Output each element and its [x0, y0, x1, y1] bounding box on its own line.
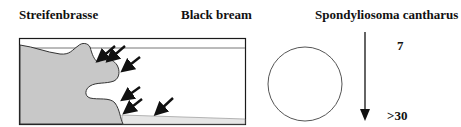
- down-arrow-icon: [360, 32, 370, 121]
- scale-top-value: 7: [397, 38, 404, 54]
- scale-bottom-value: >30: [387, 108, 407, 124]
- circle-icon: [268, 47, 342, 121]
- habitat-cross-section-icon: [20, 39, 246, 125]
